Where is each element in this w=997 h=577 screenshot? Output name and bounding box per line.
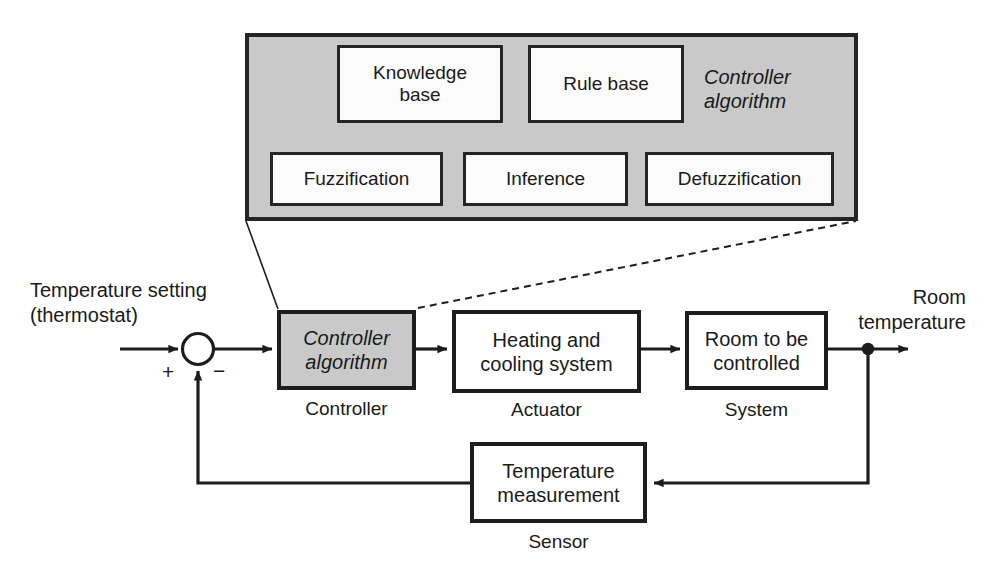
zoom-connector-left — [246, 221, 278, 309]
box-fuzzification-label: Fuzzification — [304, 168, 410, 190]
block-system: Room to be controlled — [685, 311, 828, 390]
panel-caption-controller-algorithm: Controller algorithm — [704, 65, 854, 113]
wire-system-to-output — [828, 343, 908, 355]
summing-junction — [183, 334, 214, 365]
caption-sensor: Sensor — [470, 531, 647, 553]
box-fuzzification: Fuzzification — [270, 152, 443, 206]
label-room-temperature: Room temperature — [838, 285, 966, 335]
box-defuzzification: Defuzzification — [645, 152, 834, 206]
box-knowledge-base: Knowledge base — [337, 45, 503, 123]
summing-junction-plus-sign: + — [162, 361, 174, 382]
block-system-label: Room to be controlled — [705, 327, 808, 375]
block-sensor: Temperature measurement — [470, 442, 647, 523]
box-rule-base: Rule base — [528, 45, 684, 123]
block-actuator-label: Heating and cooling system — [480, 328, 612, 376]
box-knowledge-base-label: Knowledge base — [373, 62, 467, 107]
block-controller-label: Controller algorithm — [303, 326, 390, 374]
output-tap-node — [862, 343, 874, 355]
box-inference-label: Inference — [506, 168, 585, 190]
block-controller: Controller algorithm — [277, 310, 416, 390]
box-rule-base-label: Rule base — [563, 73, 649, 95]
box-inference: Inference — [463, 152, 628, 206]
block-actuator: Heating and cooling system — [452, 310, 641, 393]
block-sensor-label: Temperature measurement — [497, 459, 619, 507]
caption-system: System — [685, 399, 828, 421]
box-defuzzification-label: Defuzzification — [678, 168, 802, 190]
summing-junction-minus-sign: − — [213, 360, 225, 381]
zoom-connector-right — [418, 221, 856, 308]
block-diagram-figure: Controller algorithm Knowledge base Rule… — [0, 0, 997, 577]
label-temperature-setting: Temperature setting (thermostat) — [30, 278, 240, 328]
caption-controller: Controller — [277, 398, 416, 420]
caption-actuator: Actuator — [452, 399, 641, 421]
